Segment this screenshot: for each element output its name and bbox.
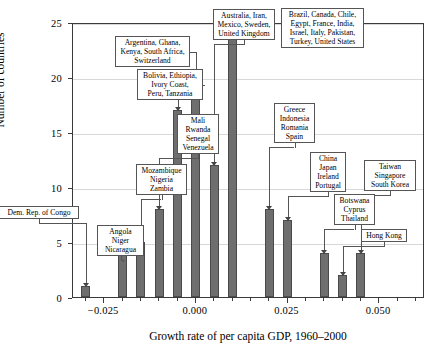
x-tick-mark-minor [177,298,178,301]
leader-line [355,225,356,230]
x-tick-mark-minor [213,298,214,301]
leader-line [269,147,294,148]
leader-line [39,223,86,224]
gridline [73,79,423,80]
histogram-bar [155,209,164,297]
histogram-bar [210,165,219,297]
y-tick-mark [68,243,72,244]
x-tick-mark-minor [415,298,416,301]
x-tick-mark-major [103,298,104,303]
leader-line [159,158,198,159]
y-tick-label: 0 [28,293,62,304]
leader-arrowhead [358,250,364,254]
leader-arrowhead [156,206,162,210]
country-annotation: Angola Niger Nicaragua [97,225,144,256]
leader-line [288,196,289,218]
country-annotation: Australia, Iran, Mexico, Sweden, United … [213,9,275,40]
leader-line [324,229,354,230]
x-axis-title: Growth rate of per capita GDP, 1960–2000 [72,330,424,342]
y-tick-label: 20 [28,73,62,84]
y-tick-mark [68,78,72,79]
country-annotation: Hong Kong [361,229,407,242]
country-annotation: Argentina, Ghana, Kenya, South Africa, S… [115,36,190,67]
histogram-bar [338,275,347,297]
country-annotation: Mozambique Nigeria Zambia [136,164,187,195]
histogram-bar [320,253,329,297]
x-tick-label: 0.000 [183,305,208,316]
country-annotation: Dem. Rep. of Congo [0,206,79,219]
x-tick-mark-major [287,298,288,303]
x-tick-mark-minor [342,298,343,301]
x-tick-label: −0.025 [88,305,119,316]
leader-line [288,196,329,197]
leader-line [244,40,245,45]
leader-arrowhead [266,206,272,210]
x-tick-mark-minor [85,298,86,301]
leader-line [384,242,385,247]
y-tick-label: 25 [28,18,62,29]
x-tick-mark-minor [250,298,251,301]
country-annotation: Mali Rwanda Senegal Venezuela [177,114,219,154]
y-axis-title: Number of countries [0,0,6,160]
y-tick-mark [68,23,72,24]
y-tick-label: 15 [28,128,62,139]
x-tick-mark-minor [232,298,233,301]
leader-line [86,223,87,284]
x-tick-mark-minor [122,298,123,301]
leader-line [123,260,124,262]
x-tick-mark-major [195,298,196,303]
leader-line [343,246,385,247]
leader-line [328,192,329,197]
y-tick-label: 10 [28,183,62,194]
leader-line [343,246,344,273]
x-tick-mark-minor [323,298,324,301]
leader-line [198,154,199,159]
histogram-bar [283,220,292,297]
x-tick-mark-minor [305,298,306,301]
y-tick-label: 5 [28,238,62,249]
histogram-bar [356,253,365,297]
country-annotation: Brazil, Canada, Chile, Egypt, France, In… [281,8,364,48]
histogram-bar [81,286,90,297]
leader-arrowhead [211,162,217,166]
y-tick-mark [68,188,72,189]
leader-line [39,219,40,224]
leader-line [121,256,122,261]
x-tick-mark-minor [158,298,159,301]
x-tick-mark-minor [268,298,269,301]
leader-arrowhead [321,250,327,254]
leader-line [269,147,270,207]
leader-arrowhead [83,283,89,287]
chart-figure: Dem. Rep. of CongoAngola Niger Nicaragua… [0,0,439,355]
leader-arrowhead [340,272,346,276]
leader-line [324,229,325,251]
histogram-bar [228,33,237,297]
x-tick-mark-minor [360,298,361,301]
leader-line [295,143,296,148]
x-tick-label: 0.025 [274,305,299,316]
x-tick-mark-major [378,298,379,303]
country-annotation: Bolivia, Ethiopia, Ivory Coast, Peru, Ta… [137,69,203,100]
leader-line [162,195,163,200]
country-annotation: Taiwan Singapore South Korea [364,160,416,191]
gridline [73,134,423,135]
y-tick-mark [68,133,72,134]
leader-line [203,85,205,86]
x-tick-mark-minor [397,298,398,301]
x-tick-mark-minor [140,298,141,301]
country-annotation: Greece Indonesia Romania Spain [274,103,315,143]
leader-line [390,191,391,196]
country-annotation: Botswana Cyprus Thailand [334,194,375,225]
leader-arrowhead [285,217,291,221]
leader-line [214,44,244,45]
plot-area: Dem. Rep. of CongoAngola Niger Nicaragua… [72,23,424,298]
country-annotation: China Japan Ireland Portugal [310,152,346,192]
x-tick-label: 0.050 [366,305,391,316]
histogram-bar [265,209,274,297]
leader-arrowhead [175,107,181,111]
y-tick-mark [68,298,72,299]
